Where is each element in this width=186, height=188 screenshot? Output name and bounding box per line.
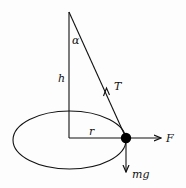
conical-pendulum-diagram: α h T r F mg <box>0 0 186 188</box>
height-label: h <box>58 72 65 85</box>
force-label: F <box>165 132 174 145</box>
diagram-svg: α h T r F mg <box>0 0 186 188</box>
weight-label: mg <box>132 168 149 181</box>
string-line <box>69 12 126 138</box>
radius-label: r <box>89 125 95 138</box>
angle-label: α <box>72 34 80 47</box>
tension-label: T <box>114 80 123 93</box>
pendulum-bob <box>121 133 131 143</box>
